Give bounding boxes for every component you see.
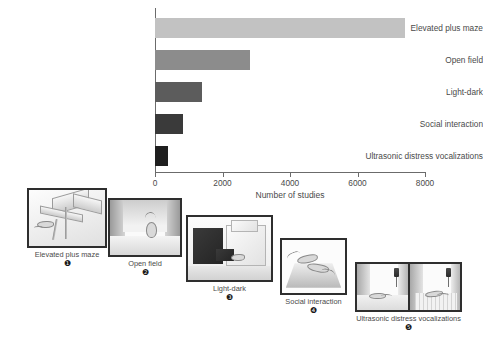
bar-open-field xyxy=(155,50,250,70)
panel-caption-ultrasonic-distress-vocalizations: Ultrasonic distress vocalizations xyxy=(355,314,462,323)
x-tick-label-4: 8000 xyxy=(416,178,434,188)
panel-open-field: Open field ❷ xyxy=(108,198,182,277)
panel-caption-open-field: Open field xyxy=(108,259,182,268)
x-tick-4 xyxy=(425,172,426,177)
category-label-4: Ultrasonic distress vocalizations xyxy=(333,146,483,166)
photo-open-field xyxy=(108,198,182,257)
bar-elevated-plus-maze xyxy=(155,18,405,38)
panel-number-1: ❶ xyxy=(27,259,107,268)
photo-usv-left xyxy=(357,264,408,310)
photo-elevated-plus-maze xyxy=(27,188,107,248)
panel-number-5: ❺ xyxy=(355,323,462,332)
panel-number-4: ❹ xyxy=(280,306,347,315)
category-label-1: Open field xyxy=(333,50,483,70)
x-tick-3 xyxy=(358,172,359,177)
panel-light-dark: Light-dark ❸ xyxy=(186,215,273,302)
x-tick-1 xyxy=(223,172,224,177)
photo-ultrasonic-distress-vocalizations xyxy=(355,262,462,312)
panel-ultrasonic-distress-vocalizations: Ultrasonic distress vocalizations ❺ xyxy=(355,262,462,332)
bar-chart: Elevated plus maze Open field Light-dark… xyxy=(0,0,483,205)
photo-light-dark xyxy=(186,215,273,282)
category-label-3: Social interaction xyxy=(333,114,483,134)
panel-social-interaction: Social interaction ❹ xyxy=(280,238,347,315)
panel-caption-elevated-plus-maze: Elevated plus maze xyxy=(27,250,107,259)
x-tick-label-3: 6000 xyxy=(348,178,366,188)
panel-number-3: ❸ xyxy=(186,293,273,302)
x-axis-title: Number of studies xyxy=(155,190,425,200)
panel-caption-social-interaction: Social interaction xyxy=(280,297,347,306)
x-tick-0 xyxy=(155,172,156,177)
x-tick-label-1: 2000 xyxy=(213,178,231,188)
photo-social-interaction xyxy=(280,238,347,295)
panel-elevated-plus-maze: Elevated plus maze ❶ xyxy=(27,188,107,268)
bar-light-dark xyxy=(155,82,202,102)
photo-usv-right xyxy=(408,264,461,310)
x-tick-label-2: 4000 xyxy=(281,178,299,188)
panel-caption-light-dark: Light-dark xyxy=(186,284,273,293)
panel-number-2: ❷ xyxy=(108,268,182,277)
category-label-2: Light-dark xyxy=(333,82,483,102)
x-tick-label-0: 0 xyxy=(153,178,158,188)
bar-social-interaction xyxy=(155,114,183,134)
x-tick-2 xyxy=(290,172,291,177)
bar-ultrasonic-distress-vocalizations xyxy=(155,146,168,166)
figure-root: Elevated plus maze Open field Light-dark… xyxy=(0,0,483,355)
